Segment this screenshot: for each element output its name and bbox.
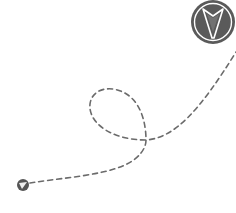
dashed-route-path (30, 52, 236, 183)
arrowhead-badge-icon (191, 0, 235, 44)
paper-plane-icon (17, 179, 29, 191)
flight-path-illustration (0, 0, 236, 213)
